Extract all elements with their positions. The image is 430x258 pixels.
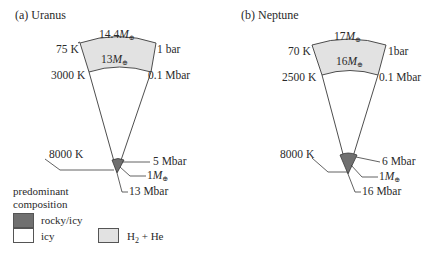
legend-label-rocky-icy: rocky/icy bbox=[41, 215, 83, 226]
neptune-outer-mass: 17M⊕ bbox=[334, 31, 361, 44]
neptune-core-temp: 8000 K bbox=[280, 149, 314, 161]
legend-heading-line1: predominant bbox=[13, 186, 69, 197]
uranus-outer-pressure: 1 bar bbox=[157, 44, 180, 56]
uranus-title: (a) Uranus bbox=[15, 9, 66, 21]
neptune-inner-pressure: 0.1 Mbar bbox=[379, 72, 421, 84]
neptune-center-pressure: 16 Mbar bbox=[362, 186, 401, 198]
neptune-inner-temp: 2500 K bbox=[282, 72, 316, 84]
neptune-outer-pressure: 1bar bbox=[388, 46, 408, 58]
legend-swatch-h2-he bbox=[98, 228, 119, 243]
neptune-core bbox=[340, 153, 357, 174]
neptune-title: (b) Neptune bbox=[241, 9, 299, 21]
neptune-outer-temp: 70 K bbox=[288, 46, 311, 58]
neptune-core-mass: 1M⊕ bbox=[379, 171, 400, 184]
uranus-envelope-mass: 13M⊕ bbox=[101, 54, 128, 67]
neptune-envelope-mass: 16M⊕ bbox=[336, 56, 363, 69]
uranus-outer-mass: 14.4M⊕ bbox=[99, 29, 135, 42]
uranus-core-mass: 1M⊕ bbox=[147, 170, 168, 183]
uranus-center-pressure: 13 Mbar bbox=[129, 186, 168, 198]
legend-swatch-rocky-icy bbox=[13, 213, 34, 228]
neptune-core-top-pressure: 6 Mbar bbox=[382, 156, 416, 168]
legend-label-icy: icy bbox=[41, 231, 54, 242]
legend-swatch-icy bbox=[13, 228, 34, 243]
uranus-outer-temp: 75 K bbox=[56, 44, 79, 56]
uranus-inner-pressure: 0.1 Mbar bbox=[148, 70, 190, 82]
legend-label-h2-he: H2 + He bbox=[127, 231, 163, 245]
uranus-core-temp: 8000 K bbox=[49, 149, 83, 161]
uranus-inner-temp: 3000 K bbox=[51, 70, 85, 82]
uranus-core-top-pressure: 5 Mbar bbox=[153, 156, 187, 168]
uranus-core bbox=[112, 159, 124, 174]
legend-heading-line2: composition bbox=[13, 199, 67, 210]
